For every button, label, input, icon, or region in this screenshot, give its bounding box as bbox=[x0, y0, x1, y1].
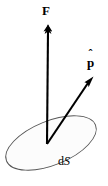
force-vector-shaft bbox=[47, 31, 48, 144]
surface-element-ellipse bbox=[0, 105, 104, 182]
unit-vector-label: ˆp bbox=[87, 56, 94, 69]
surface-element-label: dS bbox=[58, 155, 70, 167]
figure-canvas bbox=[0, 0, 108, 186]
unit-vector-symbol-stack: ˆp bbox=[87, 56, 94, 69]
physics-figure: F ˆp dS bbox=[0, 0, 108, 186]
surface-symbol: S bbox=[64, 154, 70, 168]
circumflex-accent: ˆ bbox=[89, 48, 93, 60]
force-vector-label: F bbox=[42, 4, 50, 17]
